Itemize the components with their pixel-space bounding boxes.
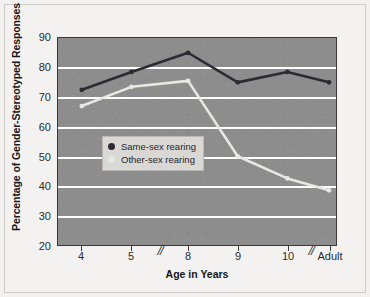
x-tick-label-4: 4 — [78, 250, 84, 262]
y-tick-label-40: 40 — [22, 180, 51, 192]
x-tick-label-10: 10 — [282, 250, 294, 262]
y-tick-label-20: 20 — [22, 240, 51, 252]
y-tick-label-70: 70 — [22, 91, 51, 103]
data-point — [129, 84, 134, 89]
y-tick-label-60: 60 — [22, 121, 51, 133]
data-point — [186, 79, 191, 84]
data-point — [186, 50, 191, 55]
figure: Percentage of Gender-Stereotyped Respons… — [0, 0, 370, 297]
axis-break-mark-1: // — [157, 243, 162, 258]
data-point — [129, 70, 134, 75]
legend-item-same-sex-rearing: Same-sex rearing — [108, 140, 196, 153]
data-point — [327, 188, 332, 193]
legend-marker-icon — [108, 143, 115, 150]
line-same-sex-rearing — [82, 53, 329, 90]
legend-label: Same-sex rearing — [121, 141, 196, 152]
legend-item-other-sex-rearing: Other-sex rearing — [108, 153, 196, 166]
data-point — [235, 80, 240, 85]
x-tick-label-8: 8 — [185, 250, 191, 262]
axis-break-mark-2: // — [308, 243, 313, 258]
data-point — [285, 70, 290, 75]
legend-marker-icon — [108, 156, 115, 163]
y-tick-label-80: 80 — [22, 61, 51, 73]
x-tick-label-adult: Adult — [317, 250, 342, 262]
x-tick-label-5: 5 — [128, 250, 134, 262]
points-same-sex-rearing — [79, 50, 331, 92]
legend: Same-sex rearing Other-sex rearing — [102, 136, 204, 171]
data-point — [79, 104, 84, 109]
y-axis-title: Percentage of Gender-Stereotyped Respons… — [10, 31, 22, 231]
legend-label: Other-sex rearing — [121, 154, 195, 165]
x-axis-title: Age in Years — [57, 268, 337, 280]
data-point — [285, 176, 290, 181]
data-point — [79, 87, 84, 92]
data-point — [327, 80, 332, 85]
y-tick-label-90: 90 — [22, 31, 51, 43]
data-point — [235, 154, 240, 159]
y-tick-label-50: 50 — [22, 151, 51, 163]
x-tick-label-9: 9 — [235, 250, 241, 262]
y-tick-label-30: 30 — [22, 210, 51, 222]
